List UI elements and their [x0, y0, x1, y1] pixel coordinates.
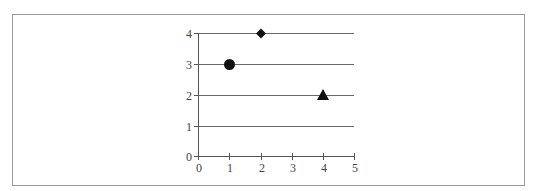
x-label-1: 1	[227, 161, 233, 175]
gridlines	[198, 34, 354, 127]
scatter-chart: 0 1 2 3 4 0 1 2 3 4 5	[0, 0, 537, 191]
x-label-5: 5	[352, 161, 358, 175]
x-label-0: 0	[196, 161, 202, 175]
x-tick-labels: 0 1 2 3 4 5	[196, 161, 358, 175]
x-label-2: 2	[259, 161, 265, 175]
x-label-3: 3	[290, 161, 296, 175]
y-label-1: 1	[186, 120, 192, 134]
x-label-4: 4	[321, 161, 327, 175]
diamond-marker	[256, 29, 266, 39]
y-label-3: 3	[186, 58, 192, 72]
triangle-marker	[317, 89, 329, 100]
y-label-2: 2	[186, 89, 192, 103]
y-label-4: 4	[186, 27, 192, 41]
circle-marker	[224, 59, 235, 70]
y-tick-labels: 0 1 2 3 4	[186, 27, 192, 164]
axes	[194, 33, 355, 160]
y-label-0: 0	[186, 150, 192, 164]
